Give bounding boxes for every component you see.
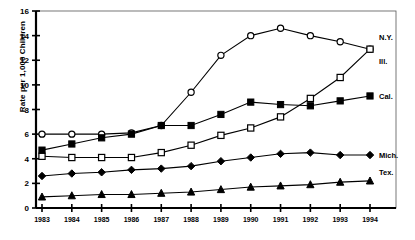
data-point-ny (337, 39, 343, 45)
series-line-ny (42, 28, 370, 134)
x-tick-label: 1984 (64, 216, 80, 223)
series-line-tex (42, 181, 370, 197)
data-point-mich (247, 154, 254, 161)
y-tick-label: 0 (25, 204, 30, 213)
data-point-cal (158, 122, 164, 128)
data-point-mich (307, 149, 314, 156)
x-tick-label: 1993 (332, 216, 348, 223)
data-point-mich (336, 151, 343, 158)
data-point-ill (39, 153, 45, 159)
data-point-cal (128, 131, 134, 137)
data-point-mich (158, 165, 165, 172)
data-point-cal (337, 98, 343, 104)
data-point-ill (277, 114, 283, 120)
series-label-ny: N.Y. (379, 33, 393, 42)
y-tick-label: 16 (20, 7, 29, 16)
data-point-ill (337, 74, 343, 80)
data-point-ny (248, 33, 254, 39)
chart-plot-area: 0246810121416198319841985198619871988198… (0, 0, 415, 240)
series-line-ill (42, 49, 370, 157)
y-tick-label: 8 (25, 106, 30, 115)
series-label-cal: Cal. (379, 92, 393, 101)
x-tick-label: 1985 (94, 216, 110, 223)
data-point-cal (367, 93, 373, 99)
data-point-ill (69, 154, 75, 160)
x-tick-label: 1991 (273, 216, 289, 223)
data-point-ill (128, 154, 134, 160)
data-point-cal (99, 135, 105, 141)
y-tick-label: 12 (20, 56, 29, 65)
data-point-ill (307, 95, 313, 101)
data-point-cal (248, 99, 254, 105)
data-point-ny (277, 25, 283, 31)
x-tick-label: 1986 (124, 216, 140, 223)
data-point-cal (39, 147, 45, 153)
data-point-mich (68, 170, 75, 177)
data-point-mich (217, 158, 224, 165)
data-point-mich (187, 162, 194, 169)
data-point-ill (158, 149, 164, 155)
x-tick-label: 1989 (213, 216, 229, 223)
data-point-ny (218, 52, 224, 58)
x-tick-label: 1994 (362, 216, 378, 223)
data-point-cal (188, 122, 194, 128)
data-point-mich (366, 151, 373, 158)
data-point-ny (39, 131, 45, 137)
series-line-cal (42, 96, 370, 150)
x-tick-label: 1987 (153, 216, 169, 223)
data-point-ny (188, 89, 194, 95)
x-tick-label: 1992 (303, 216, 319, 223)
y-tick-label: 6 (25, 130, 30, 139)
series-label-tex: Tex. (379, 168, 393, 177)
data-point-ill (218, 132, 224, 138)
data-point-ny (307, 33, 313, 39)
data-point-ill (367, 46, 373, 52)
data-point-cal (307, 103, 313, 109)
data-point-ill (99, 154, 105, 160)
data-point-ny (69, 131, 75, 137)
data-point-ill (248, 125, 254, 131)
data-point-mich (277, 150, 284, 157)
y-tick-label: 10 (20, 81, 29, 90)
x-tick-label: 1988 (183, 216, 199, 223)
y-tick-label: 2 (25, 179, 30, 188)
data-point-cal (69, 141, 75, 147)
line-chart: Rate per 1,000 Children 0246810121416198… (0, 0, 415, 240)
data-point-cal (218, 111, 224, 117)
data-point-mich (98, 169, 105, 176)
x-tick-label: 1983 (34, 216, 50, 223)
y-tick-label: 14 (20, 32, 29, 41)
y-tick-label: 4 (25, 155, 30, 164)
data-point-ill (188, 142, 194, 148)
series-label-mich: Mich. (379, 151, 398, 160)
x-tick-label: 1990 (243, 216, 259, 223)
series-label-ill: Ill. (379, 57, 387, 66)
data-point-mich (38, 172, 45, 179)
data-point-cal (277, 101, 283, 107)
data-point-mich (128, 166, 135, 173)
series-line-mich (42, 153, 370, 176)
